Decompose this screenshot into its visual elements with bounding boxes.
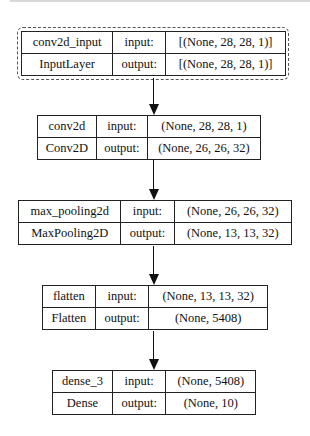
output-shape: (None, 26, 26, 32) (147, 138, 260, 160)
top-divider (10, 0, 310, 2)
output-label: output: (121, 223, 174, 245)
layer-node-conv2d: conv2d input: (None, 28, 28, 1) Conv2D o… (37, 115, 261, 160)
arrow-down-icon (149, 104, 159, 115)
edge-line (153, 246, 154, 276)
edge-line (153, 78, 154, 106)
output-label: output: (113, 54, 166, 76)
layer-class: InputLayer (22, 54, 113, 76)
output-shape: (None, 5408) (149, 308, 268, 330)
output-label: output: (96, 138, 147, 160)
arrow-down-icon (149, 274, 159, 285)
output-shape: (None, 10) (166, 393, 256, 415)
layer-name: flatten (43, 286, 96, 308)
input-shape: (None, 26, 26, 32) (174, 201, 291, 223)
output-shape: [(None, 28, 28, 1)] (166, 54, 286, 76)
layer-class: Flatten (43, 308, 96, 330)
input-label: input: (95, 286, 149, 308)
layer-node-max-pooling2d: max_pooling2d input: (None, 26, 26, 32) … (18, 200, 292, 245)
input-label: input: (96, 116, 147, 138)
layer-name: dense_3 (53, 371, 113, 393)
output-label: output: (95, 308, 149, 330)
layer-node-flatten: flatten input: (None, 13, 13, 32) Flatte… (42, 285, 268, 330)
layer-name: conv2d_input (22, 32, 113, 54)
layer-class: MaxPooling2D (19, 223, 121, 245)
input-shape: (None, 5408) (166, 371, 256, 393)
input-shape: (None, 28, 28, 1) (147, 116, 260, 138)
edge-line (153, 331, 154, 361)
edge-line (153, 160, 154, 190)
input-shape: (None, 13, 13, 32) (149, 286, 268, 308)
layer-name: max_pooling2d (19, 201, 121, 223)
layer-class: Conv2D (38, 138, 97, 160)
layer-name: conv2d (38, 116, 97, 138)
arrow-down-icon (149, 189, 159, 200)
output-label: output: (112, 393, 166, 415)
input-label: input: (113, 32, 166, 54)
arrow-down-icon (149, 359, 159, 370)
layer-node-dense-3: dense_3 input: (None, 5408) Dense output… (52, 370, 256, 415)
input-label: input: (112, 371, 166, 393)
input-label: input: (121, 201, 174, 223)
layer-node-conv2d-input: conv2d_input input: [(None, 28, 28, 1)] … (21, 31, 286, 76)
layer-class: Dense (53, 393, 113, 415)
input-shape: [(None, 28, 28, 1)] (166, 32, 286, 54)
output-shape: (None, 13, 13, 32) (174, 223, 291, 245)
